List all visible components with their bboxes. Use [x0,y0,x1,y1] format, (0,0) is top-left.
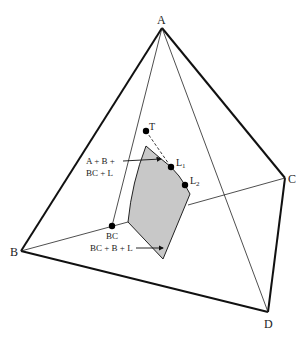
upper-field-label-line2: BC + L [86,168,113,178]
point-label-BC: BC [106,231,118,241]
point-label-T: T [149,121,155,132]
tetrahedron-diagram: A B C D T L1 L2 BC A + B + BC + L BC + B… [0,0,305,342]
vertex-label-D: D [264,317,273,331]
point-label-L2: L2 [190,175,200,188]
edge-C-D [268,178,285,312]
line-surface-C [188,178,285,205]
point-L2 [182,182,188,188]
upper-field-label-line1: A + B + [86,156,115,166]
point-BC [109,223,115,229]
edge-B-D [21,251,268,312]
lower-field-label: BC + B + L [90,243,133,253]
vertex-label-C: C [288,172,296,186]
vertex-label-B: B [10,245,18,259]
edge-A-D [162,28,268,312]
vertex-label-A: A [157,13,166,27]
edge-A-C [162,28,285,178]
point-L1 [168,164,174,170]
point-label-L1: L1 [176,157,186,170]
